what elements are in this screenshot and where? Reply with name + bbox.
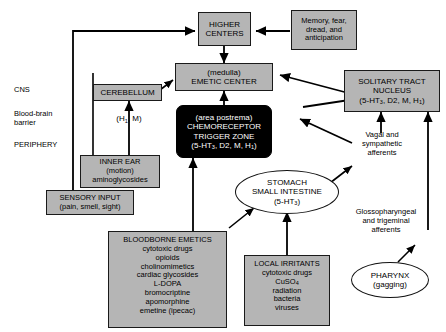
node-pharynx[interactable]: PHARYNX (gagging)	[351, 262, 429, 298]
pharynx-line2: (gagging)	[373, 280, 407, 289]
label-barrier-line2: barrier	[14, 119, 36, 128]
inner-ear-line3: aminoglycosides	[92, 176, 147, 185]
stn-line3: (5-HT3, D2, M, H1)	[359, 96, 424, 105]
vagal-to-ctz-arrow	[300, 119, 352, 143]
node-stomach-small-intestine[interactable]: STOMACH SMALL INTESTINE (5-HT3)	[235, 170, 339, 214]
node-sensory-input[interactable]: SENSORY INPUT (pain, smell, sight)	[46, 190, 134, 215]
node-inner-ear[interactable]: INNER EAR (motion) aminoglycosides	[80, 155, 160, 188]
edge-label-h1-m: (H1, M)	[107, 112, 151, 126]
label-blood-brain-barrier: Blood-brain barrier	[14, 110, 88, 128]
glosso-line3: afferents	[371, 226, 400, 235]
bloodborne-to-stomach-arrow	[229, 208, 254, 228]
h1-m-text: (H1, M)	[116, 114, 141, 123]
node-chemoreceptor-trigger-zone[interactable]: (area postrema) CHEMORECEPTOR TRIGGER ZO…	[176, 105, 272, 158]
pharynx-line1: PHARYNX	[371, 271, 410, 280]
memory-line3: anticipation	[305, 34, 343, 43]
cerebellum-line1: CEREBELLUM	[100, 88, 154, 97]
ctz-line4: (5-HT3, D2, M, H1)	[191, 141, 256, 150]
stomach-to-vagal-arrow	[330, 166, 352, 183]
label-periphery-text: PERIPHERY	[14, 141, 57, 150]
node-emetic-center[interactable]: (medulla) EMETIC CENTER	[175, 63, 273, 91]
higher-centers-line2: CENTERS	[205, 29, 243, 38]
emetic-center-line2: EMETIC CENTER	[191, 77, 256, 86]
node-bloodborne-emetics[interactable]: BLOODBORNE EMETICS cytotoxic drugs opioi…	[108, 231, 227, 328]
stn-to-emetic-center-arrow	[280, 75, 352, 94]
emesis-pathway-diagram: CNS Blood-brain barrier PERIPHERY HIGHER…	[0, 0, 446, 332]
stomach-line1: STOMACH	[267, 178, 307, 187]
ctz-line3: TRIGGER ZONE	[194, 132, 255, 141]
vagal-line3: afferents	[367, 149, 396, 158]
node-local-irritants[interactable]: LOCAL IRRITANTS cytotoxic drugs CuSO4 ra…	[244, 255, 330, 326]
node-solitary-tract-nucleus[interactable]: SOLITARY TRACT NUCLEUS (5-HT3, D2, M, H1…	[344, 70, 440, 112]
node-higher-centers[interactable]: HIGHER CENTERS	[198, 12, 251, 46]
stomach-line2: SMALL INTESTINE	[252, 187, 322, 196]
node-memory-fear-dread[interactable]: Memory, fear, dread, and anticipation	[291, 10, 357, 50]
stn-line1: SOLITARY TRACT	[358, 77, 425, 86]
label-periphery: PERIPHERY	[14, 141, 88, 150]
label-cns-text: CNS	[14, 86, 30, 95]
label-cns: CNS	[14, 86, 84, 95]
edge-label-glossopharyngeal-trigeminal-afferents: Glossopharyngeal and trigeminal afferent…	[346, 208, 426, 235]
ctz-line1: (area postrema)	[196, 113, 253, 122]
stn-line2: NUCLEUS	[373, 86, 411, 95]
sensory-input-line2: (pain, smell, sight)	[60, 203, 121, 212]
stomach-line3: (5-HT3)	[274, 197, 300, 206]
emetic-center-line1: (medulla)	[207, 68, 240, 77]
pharynx-to-glossopharyngeal-arrow	[398, 245, 415, 262]
local-irritants-item: viruses	[275, 304, 299, 313]
edge-label-vagal-sympathetic-afferents: Vagal and sympathetic afferents	[349, 131, 415, 158]
bloodborne-emetics-item: emetine (ipecac)	[140, 307, 195, 316]
node-cerebellum[interactable]: CEREBELLUM	[93, 84, 162, 101]
higher-centers-line1: HIGHER	[209, 20, 240, 29]
ctz-line2: CHEMORECEPTOR	[187, 122, 261, 131]
